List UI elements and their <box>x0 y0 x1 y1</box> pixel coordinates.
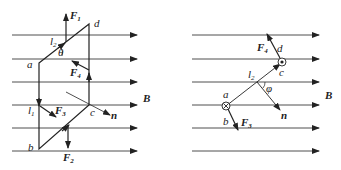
label-l2: l2 <box>248 68 255 82</box>
label-n: n <box>111 109 117 121</box>
force-f3-arrow <box>40 106 56 117</box>
label-a: a <box>27 58 33 70</box>
left-figure: a b c d θ n B l2 l1 F1 F2 F3 F4 <box>12 9 150 165</box>
label-c: c <box>90 106 95 118</box>
left-field-lines <box>12 35 137 151</box>
label-f3: F3 <box>240 116 252 130</box>
label-f3: F3 <box>54 104 66 118</box>
label-f4: F4 <box>69 66 81 80</box>
label-phi: φ <box>266 82 272 94</box>
label-n: n <box>281 109 287 121</box>
label-f2: F2 <box>62 151 74 165</box>
label-l1: l1 <box>28 104 35 118</box>
label-b: b <box>223 115 229 127</box>
label-theta: θ <box>58 46 64 58</box>
label-l2: l2 <box>50 35 57 49</box>
diagram-canvas: a b c d θ n B l2 l1 F1 F2 F3 F4 <box>0 0 341 170</box>
normal-vector <box>66 92 110 115</box>
force-f3-arrow <box>228 109 238 130</box>
angle-phi-arc <box>263 82 265 88</box>
dot-mark <box>280 60 283 63</box>
label-f1: F1 <box>69 9 81 23</box>
label-d: d <box>277 42 283 54</box>
label-a: a <box>223 88 229 100</box>
label-b-field: B <box>324 89 332 101</box>
label-c: c <box>279 66 284 78</box>
label-b: b <box>28 141 34 153</box>
label-f4: F4 <box>256 41 268 55</box>
right-field-lines <box>192 35 319 151</box>
right-figure: a b c d φ n B l2 F3 F4 <box>192 34 332 151</box>
label-d: d <box>94 17 100 29</box>
label-b-field: B <box>142 92 150 104</box>
current-loop <box>39 24 89 149</box>
